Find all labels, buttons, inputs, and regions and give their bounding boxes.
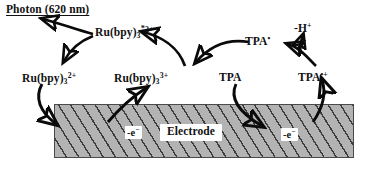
electron-left-charge: −	[135, 126, 139, 134]
electron-transfer-left: -e−	[125, 126, 142, 139]
electron-transfer-right: -e−	[281, 128, 298, 141]
tpa-oxidation-arrow-path	[234, 84, 262, 126]
ru3plus-regeneration-arrow-path	[108, 88, 146, 122]
ru-3plus-base: Ru(bpy)	[114, 72, 156, 84]
proton-loss-base: -H	[294, 22, 307, 34]
proton-loss-charge: +	[307, 21, 312, 30]
tpa-radical-cation-base: TPA	[298, 71, 320, 83]
label-proton-loss: -H+	[294, 22, 312, 35]
photon-label: Photon (620 nm)	[6, 4, 89, 16]
tpa-radical-marker: •	[267, 34, 270, 43]
species-ru-3plus: Ru(bpy)33+	[114, 72, 168, 86]
species-tpa: TPA	[219, 72, 241, 84]
species-tpa-radical: TPA•	[245, 35, 270, 48]
tpa-radical-formation-arrow-path	[288, 44, 316, 66]
arrow-layer	[0, 0, 376, 184]
ru2plus-oxidation-arrow-path	[39, 84, 56, 124]
electrode-label-text: Electrode	[167, 125, 215, 137]
ru-3plus-charge: 3+	[160, 71, 169, 80]
tpa-radical-cation-formation-arrow-path	[313, 80, 324, 122]
photon-label-text: Photon (620 nm)	[6, 3, 89, 15]
tpa-radical-to-ru3plus-arrow-path	[196, 41, 249, 62]
species-tpa-radical-cation: TPA•+	[298, 71, 328, 84]
excited-to-ground-arrow-path	[64, 36, 93, 61]
species-ru-excited: Ru(bpy)3*2+	[95, 24, 153, 40]
tpa-radical-base: TPA	[245, 35, 267, 47]
ru-excited-charge: 2+	[145, 25, 154, 34]
electrode-label: Electrode	[160, 124, 222, 141]
diagram-canvas: Photon (620 nm) Ru(bpy)3*2+ Ru(bpy)32+ R…	[0, 0, 376, 184]
ru-excited-base: Ru(bpy)	[95, 26, 137, 38]
species-ru-2plus: Ru(bpy)32+	[22, 72, 76, 86]
ru-2plus-base: Ru(bpy)	[22, 72, 64, 84]
tpa-base: TPA	[219, 71, 241, 83]
ru-2plus-charge: 2+	[68, 71, 77, 80]
tpa-radical-cation-charge: •+	[320, 70, 327, 79]
photon-emission-arrow-path	[43, 19, 93, 34]
electron-right-charge: −	[291, 128, 295, 136]
